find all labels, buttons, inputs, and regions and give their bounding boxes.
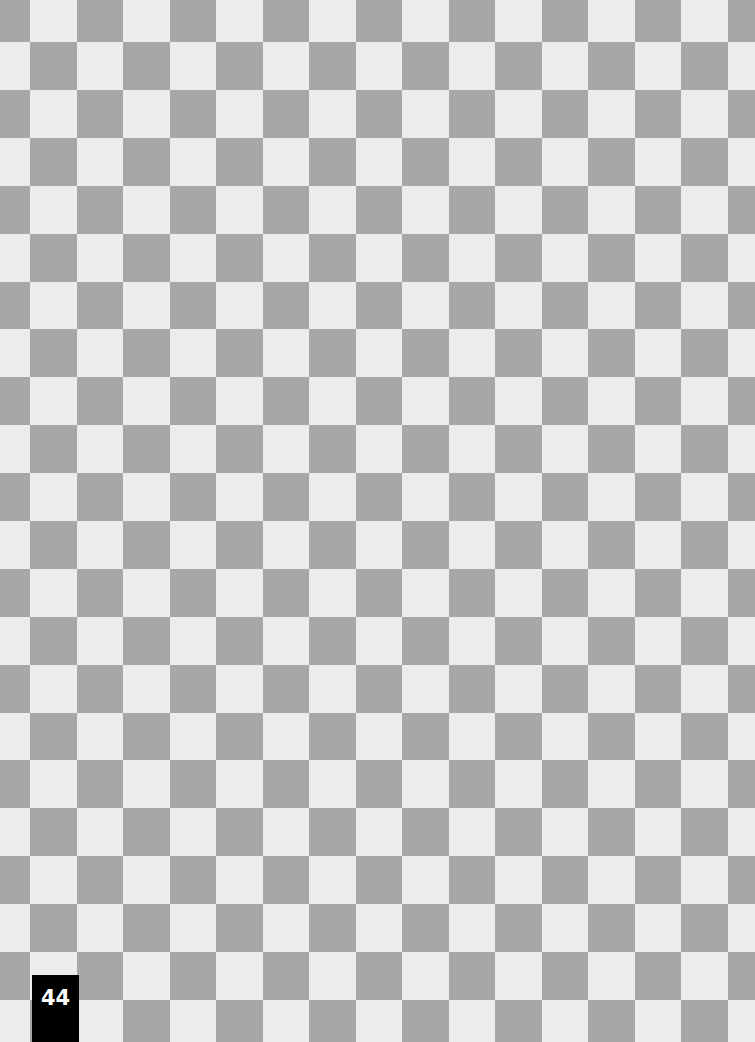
checker-square [588,1000,635,1042]
checker-square [309,808,356,856]
checker-square [309,138,356,186]
checker-square [0,377,30,425]
checker-square [588,42,635,90]
checker-square [309,617,356,665]
checker-square [356,665,402,713]
checker-square [449,569,495,617]
checker-square [635,282,681,329]
checker-square [728,952,755,1000]
checker-square [356,856,402,904]
checker-square [449,90,495,138]
checker-square [0,473,30,521]
page-number: 44 [41,986,70,1042]
checker-square [216,808,263,856]
checker-square [263,0,309,42]
checker-square [402,42,449,90]
checker-square [170,569,216,617]
checker-square [449,377,495,425]
checker-square [635,665,681,713]
checker-square [30,713,77,760]
checker-square [263,665,309,713]
checker-square [681,904,728,952]
checker-square [216,1000,263,1042]
checker-square [309,713,356,760]
checker-square [356,760,402,808]
checker-square [170,856,216,904]
checker-square [123,617,170,665]
page-number-badge: 44 [32,975,79,1042]
checker-square [170,90,216,138]
checker-square [495,42,542,90]
checker-square [263,377,309,425]
checker-square [77,760,123,808]
checker-square [263,473,309,521]
checker-square [309,329,356,377]
checker-square [216,138,263,186]
checker-square [402,138,449,186]
checker-square [263,856,309,904]
checker-square [449,952,495,1000]
checker-square [635,186,681,234]
checker-square [681,713,728,760]
checker-square [681,1000,728,1042]
checker-square [0,569,30,617]
checker-square [216,425,263,473]
checker-square [495,808,542,856]
checker-square [635,377,681,425]
checker-square [495,521,542,569]
checker-square [170,665,216,713]
checker-square [356,377,402,425]
checker-square [309,521,356,569]
checker-square [356,0,402,42]
checker-square [542,90,588,138]
checker-square [170,377,216,425]
checker-square [449,0,495,42]
checker-square [0,952,30,1000]
checker-square [542,282,588,329]
checker-square [123,808,170,856]
checker-square [309,234,356,282]
checker-square [635,0,681,42]
checker-square [402,234,449,282]
checker-square [402,521,449,569]
checker-square [681,138,728,186]
checker-square [77,186,123,234]
checker-square [449,856,495,904]
checker-square [0,665,30,713]
checker-square [123,521,170,569]
checker-square [681,42,728,90]
checker-square [402,713,449,760]
checker-square [495,904,542,952]
checker-square [123,138,170,186]
checker-square [263,760,309,808]
checker-square [30,617,77,665]
checker-square [0,760,30,808]
checker-square [123,42,170,90]
checker-square [449,760,495,808]
checker-square [356,473,402,521]
checker-square [402,1000,449,1042]
checker-square [216,617,263,665]
checker-square [681,808,728,856]
checker-square [170,760,216,808]
checker-square [170,952,216,1000]
checker-square [77,0,123,42]
checker-square [681,521,728,569]
checker-square [402,617,449,665]
checker-square [588,329,635,377]
checker-square [0,856,30,904]
checkerboard-background [0,0,755,1042]
checker-square [681,329,728,377]
checker-square [542,952,588,1000]
checker-square [542,0,588,42]
checker-square [263,952,309,1000]
checker-square [449,665,495,713]
checker-square [30,521,77,569]
checker-square [30,138,77,186]
checker-square [356,90,402,138]
checker-square [542,186,588,234]
checker-square [635,90,681,138]
checker-square [728,0,755,42]
checker-square [728,186,755,234]
checker-square [356,186,402,234]
